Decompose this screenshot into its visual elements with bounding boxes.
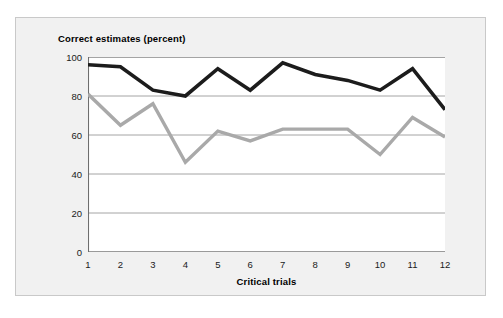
chart-figure: Correct estimates (percent) 020406080100…	[0, 0, 503, 318]
x-tick-label-2: 2	[107, 259, 133, 270]
y-tick-label-80: 80	[48, 91, 82, 102]
gridlines-group	[88, 58, 445, 252]
x-tick-label-10: 10	[367, 259, 393, 270]
x-tick-label-8: 8	[302, 259, 328, 270]
axes-group	[88, 57, 445, 252]
x-tick-label-5: 5	[205, 259, 231, 270]
x-tick-label-11: 11	[400, 259, 426, 270]
series-line-gray-series	[88, 94, 445, 162]
y-tick-label-40: 40	[48, 169, 82, 180]
y-tick-label-60: 60	[48, 130, 82, 141]
plot-area	[88, 57, 445, 252]
chart-title: Correct estimates (percent)	[58, 33, 186, 44]
y-tick-label-100: 100	[48, 52, 82, 63]
x-tick-label-3: 3	[140, 259, 166, 270]
series-line-black-series	[88, 63, 445, 110]
x-tick-label-1: 1	[75, 259, 101, 270]
x-tick-label-6: 6	[237, 259, 263, 270]
plot-svg	[88, 57, 445, 252]
x-tick-label-4: 4	[172, 259, 198, 270]
x-tick-label-12: 12	[432, 259, 458, 270]
y-tick-label-0: 0	[48, 247, 82, 258]
x-axis-title: Critical trials	[88, 276, 445, 287]
x-tick-label-9: 9	[335, 259, 361, 270]
series-group	[88, 63, 445, 162]
y-tick-label-20: 20	[48, 208, 82, 219]
x-tick-label-7: 7	[270, 259, 296, 270]
